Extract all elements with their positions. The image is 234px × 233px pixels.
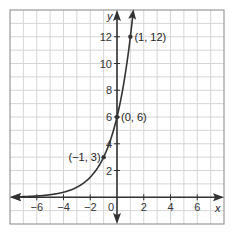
y-tick-label: 2 [106, 165, 112, 177]
x-tick-label: −2 [84, 201, 97, 213]
x-tick-label: 6 [194, 201, 200, 213]
x-tick-label: −6 [30, 201, 43, 213]
point-label: (1, 12) [134, 31, 166, 43]
y-tick-label: 6 [106, 111, 112, 123]
y-tick-label: 8 [106, 84, 112, 96]
x-tick-label: 2 [141, 201, 147, 213]
x-tick-label: −4 [57, 201, 70, 213]
data-point [101, 155, 105, 159]
x-tick-label: 4 [167, 201, 173, 213]
data-point [115, 115, 119, 119]
data-point [128, 35, 132, 39]
y-axis-label: y [106, 10, 114, 22]
exponential-graph: −6−4−2024624681012 (−1, 3)(0, 6)(1, 12) … [0, 0, 234, 233]
y-tick-label: 12 [100, 31, 112, 43]
x-tick-label: 0 [108, 201, 114, 213]
point-label: (−1, 3) [69, 151, 101, 163]
y-tick-label: 10 [100, 58, 112, 70]
point-label: (0, 6) [121, 111, 147, 123]
x-axis-label: x [214, 202, 221, 214]
